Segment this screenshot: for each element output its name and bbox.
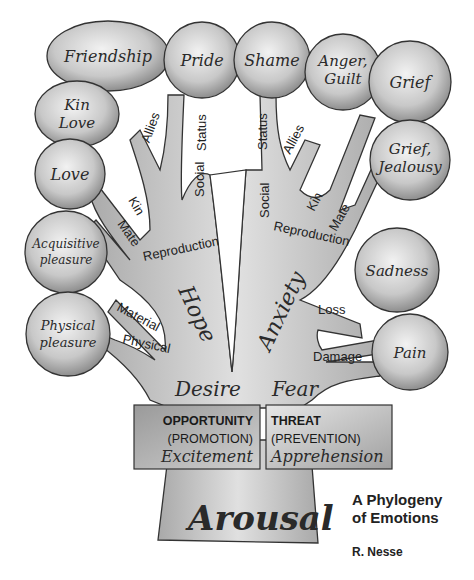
emotion-friendship: Friendship	[47, 21, 169, 91]
opportunity-label: OPPORTUNITY	[163, 414, 254, 428]
emotion-sadness: Sadness	[355, 228, 439, 312]
left-kin-label: Kin	[125, 194, 147, 218]
promotion-label: (PROMOTION)	[168, 432, 253, 446]
opportunity-box: OPPORTUNITY (PROMOTION) Excitement	[134, 405, 260, 469]
emotion-grief: Grief	[369, 41, 451, 123]
svg-text:pleasure: pleasure	[40, 335, 97, 350]
svg-text:Grief,: Grief,	[389, 140, 432, 158]
svg-text:Pain: Pain	[393, 344, 427, 362]
arousal-label: Arousal	[185, 498, 334, 538]
svg-text:Grief: Grief	[390, 73, 434, 92]
excitement-label: Excitement	[160, 447, 254, 466]
svg-text:Friendship: Friendship	[63, 47, 152, 66]
left-social-label: Social	[192, 161, 207, 197]
svg-text:Love: Love	[50, 165, 90, 184]
svg-text:Physical: Physical	[40, 318, 95, 333]
loss-label: Loss	[318, 302, 346, 317]
svg-text:Guilt: Guilt	[324, 70, 362, 88]
desire-label: Desire	[174, 377, 241, 401]
author-credit: R. Nesse	[352, 545, 403, 559]
svg-text:Love: Love	[58, 114, 95, 132]
title-line-1: A Phylogeny	[352, 491, 442, 509]
emotion-kin-love: Kin Love	[35, 81, 119, 147]
right-status-label: Status	[255, 113, 270, 150]
emotion-grief-jealousy: Grief, Jealousy	[370, 120, 450, 200]
emotion-pride: Pride	[164, 22, 240, 98]
svg-text:pleasure: pleasure	[40, 253, 93, 267]
left-allies-label: Allies	[138, 110, 163, 145]
svg-text:Shame: Shame	[244, 51, 299, 70]
emotion-acquisitive-pleasure: Acquisitive pleasure	[25, 211, 107, 293]
prevention-label: (PREVENTION)	[271, 432, 361, 446]
emotion-pain: Pain	[372, 314, 448, 390]
threat-box: THREAT (PREVENTION) Apprehension	[266, 405, 392, 469]
title-line-2: of Emotions	[352, 509, 442, 527]
right-social-label: Social	[257, 182, 272, 218]
svg-text:Pride: Pride	[179, 51, 223, 70]
svg-text:Jealousy: Jealousy	[375, 158, 442, 176]
emotion-shame: Shame	[234, 22, 310, 98]
svg-text:Acquisitive: Acquisitive	[31, 237, 99, 251]
emotion-physical-pleasure: Physical pleasure	[26, 292, 110, 376]
damage-label: Damage	[313, 349, 362, 364]
emotion-love: Love	[35, 139, 105, 209]
left-status-label: Status	[194, 114, 209, 151]
svg-text:Kin: Kin	[63, 96, 90, 114]
apprehension-label: Apprehension	[269, 447, 384, 466]
threat-label: THREAT	[271, 414, 321, 428]
svg-text:Anger,: Anger,	[316, 52, 367, 70]
fear-label: Fear	[271, 377, 320, 401]
svg-text:Sadness: Sadness	[366, 262, 429, 280]
diagram-title: A Phylogeny of Emotions	[352, 491, 442, 527]
